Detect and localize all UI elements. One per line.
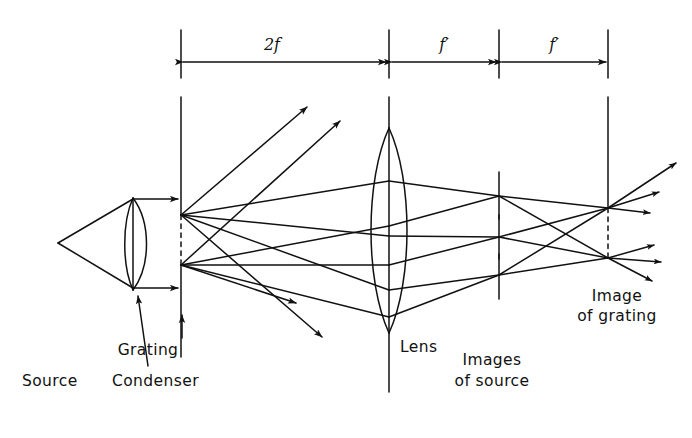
label-lens: Lens xyxy=(400,338,437,356)
dimension-label-f-prime-2: f′ xyxy=(548,35,559,54)
dimension-label-f-prime-1: f′ xyxy=(438,35,449,54)
label-images-of-source-line1: Images xyxy=(462,351,521,369)
label-image-of-grating-line1: Image xyxy=(592,287,643,305)
figure-canvas: 2f f′ f′ Source Condenser Grating Lens I… xyxy=(0,0,692,438)
rays-from-grating-lower xyxy=(181,121,389,317)
optical-ray-diagram: 2f f′ f′ Source Condenser Grating Lens I… xyxy=(0,0,692,438)
label-image-of-grating-line2: of grating xyxy=(577,307,657,325)
condenser-lens xyxy=(125,198,147,290)
rays-from-grating-upper xyxy=(181,107,389,337)
lens-body xyxy=(371,128,407,333)
dimension-bar xyxy=(181,30,608,78)
rays-past-image-upper xyxy=(608,163,676,213)
label-source: Source xyxy=(22,372,78,390)
source-rays xyxy=(58,199,178,288)
rays-past-image-lower xyxy=(608,245,661,281)
label-grating: Grating xyxy=(118,341,179,359)
label-condenser: Condenser xyxy=(112,372,199,390)
label-images-of-source-line2: of source xyxy=(455,372,530,390)
dimension-label-2f: 2f xyxy=(263,35,283,54)
